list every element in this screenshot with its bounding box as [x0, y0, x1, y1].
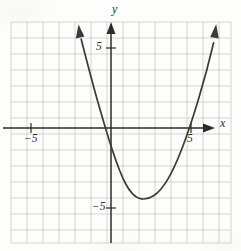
x-axis-arrowhead-icon — [203, 124, 215, 133]
y-tick-label-pos5: 5 — [96, 41, 102, 53]
parabola-right-arrowhead-icon — [210, 24, 219, 39]
parabola-figure: y x −5 5 5 −5 — [0, 0, 241, 251]
x-tick-label-pos5: 5 — [187, 133, 193, 145]
x-tick-label-neg5: −5 — [24, 133, 38, 145]
y-tick-label-neg5: −5 — [92, 201, 106, 213]
x-axis-label: x — [220, 117, 225, 129]
coordinate-plane-svg — [0, 0, 241, 251]
y-axis-arrowhead-icon — [107, 22, 116, 34]
parabola-path — [81, 39, 213, 199]
y-axis-label: y — [112, 3, 117, 15]
parabola-left-arrowhead-icon — [76, 25, 85, 39]
grid-lines — [11, 22, 231, 243]
